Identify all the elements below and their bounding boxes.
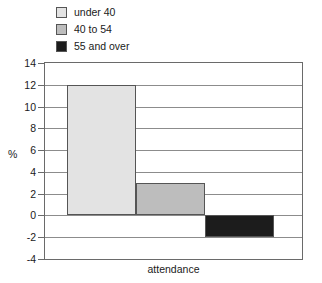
x-axis-title: attendance bbox=[44, 263, 303, 275]
y-axis-tick-label: 14 bbox=[24, 58, 36, 68]
bar-under-40 bbox=[67, 85, 136, 216]
y-axis-tick-label: 4 bbox=[30, 167, 36, 177]
y-axis-tick-label: -2 bbox=[27, 232, 36, 242]
plot-area bbox=[44, 62, 303, 260]
legend-label-55-and-over: 55 and over bbox=[74, 41, 129, 52]
y-axis-tick-label: 10 bbox=[24, 102, 36, 112]
chart-legend: under 40 40 to 54 55 and over bbox=[56, 4, 196, 55]
legend-label-40-to-54: 40 to 54 bbox=[74, 24, 112, 35]
y-axis-tick-label: 0 bbox=[30, 210, 36, 220]
bar-chart: under 40 40 to 54 55 and over % -4-20246… bbox=[0, 0, 322, 283]
bar-55-and-over bbox=[205, 215, 274, 237]
legend-swatch-icon-55-and-over bbox=[56, 41, 67, 52]
y-axis-tick-label: 12 bbox=[24, 80, 36, 90]
bar-40-to-54 bbox=[136, 183, 205, 216]
y-axis-ticks: -4-202468101214 bbox=[0, 0, 46, 283]
y-axis-tick-label: 8 bbox=[30, 123, 36, 133]
y-axis-tick-label: 2 bbox=[30, 189, 36, 199]
y-axis-tick-label: 6 bbox=[30, 145, 36, 155]
legend-item-40-to-54: 40 to 54 bbox=[56, 21, 196, 37]
y-axis-tick-label: -4 bbox=[27, 254, 36, 264]
legend-swatch-icon-under-40 bbox=[56, 7, 67, 18]
legend-label-under-40: under 40 bbox=[74, 7, 115, 18]
legend-swatch-icon-40-to-54 bbox=[56, 24, 67, 35]
legend-item-under-40: under 40 bbox=[56, 4, 196, 20]
legend-item-55-and-over: 55 and over bbox=[56, 38, 196, 54]
